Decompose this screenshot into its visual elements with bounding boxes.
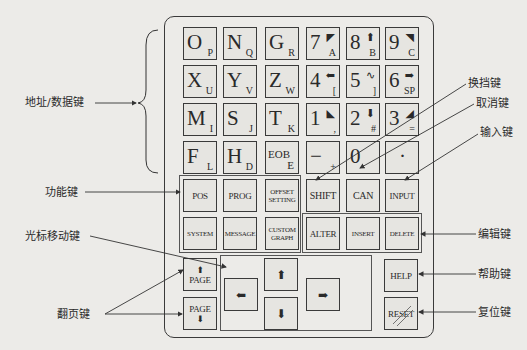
annotation-lines: [0, 0, 527, 350]
label-cursor-move-keys: 光标移动键: [25, 230, 80, 243]
label-page-keys: 翻页键: [57, 308, 90, 321]
label-edit-keys: 编辑键: [478, 228, 511, 241]
label-cancel-key: 取消键: [476, 97, 509, 110]
label-shift-key: 换挡键: [468, 77, 501, 90]
label-function-keys: 功能键: [45, 186, 78, 199]
label-address-data-keys: 地址/数据键: [25, 96, 84, 109]
label-input-key: 输入键: [480, 126, 513, 139]
label-help-key: 帮助键: [478, 268, 511, 281]
label-reset-key: 复位键: [478, 306, 511, 319]
